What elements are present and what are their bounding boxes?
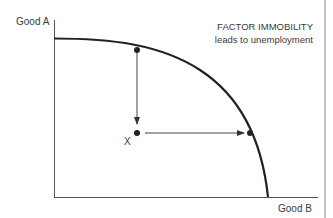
annotation-line-2: leads to unemployment	[215, 33, 313, 46]
x-axis-label: Good B	[278, 203, 312, 214]
point-x	[134, 130, 140, 136]
annotation: FACTOR IMMOBILITY leads to unemployment	[215, 20, 313, 46]
ppf-curve	[54, 39, 268, 198]
y-axis-label: Good A	[16, 16, 49, 27]
point-x-label: X	[124, 136, 131, 147]
frontier-point-right	[247, 130, 253, 136]
frontier-point-top	[134, 47, 140, 53]
annotation-line-1: FACTOR IMMOBILITY	[215, 20, 313, 33]
